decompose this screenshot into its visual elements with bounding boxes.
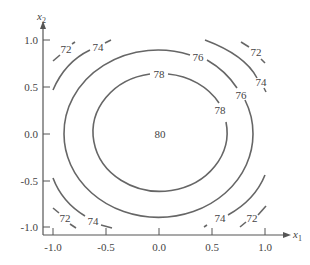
x-axis-arrow-icon	[283, 232, 291, 238]
contour-label-72: 72	[251, 46, 262, 58]
contour-label-74: 74	[256, 76, 268, 88]
contour-label-72: 72	[247, 212, 258, 224]
contour-label-76: 76	[236, 89, 248, 101]
y-tick-label: 1.0	[24, 34, 38, 46]
y-tick-label: 0.5	[24, 81, 38, 93]
x-axis-label: x1	[292, 228, 302, 243]
y-tick-label: -0.5	[21, 175, 39, 187]
y-axis-label: x2	[36, 10, 46, 25]
contour-label-78: 78	[215, 104, 227, 116]
x-tick-label: 0.0	[152, 241, 166, 253]
x-tick-label: -1.0	[44, 241, 62, 253]
center-value-label: 80	[155, 128, 167, 140]
x-tick-label: 1.0	[258, 241, 272, 253]
contour-label-72: 72	[60, 212, 71, 224]
contour-label-74: 74	[93, 41, 105, 53]
contour-label-74: 74	[88, 215, 100, 227]
y-tick-label: 0.0	[24, 128, 38, 140]
x-tick-label: 0.5	[205, 241, 219, 253]
y-tick-label: -1.0	[21, 221, 39, 233]
contour-label-78: 78	[154, 68, 166, 80]
contour-label-76: 76	[193, 51, 205, 63]
x-tick-label: -0.5	[97, 241, 115, 253]
contour-plot: 1.0 0.5 0.0 -0.5 -1.0 -1.0 -0.5 0.0 0.5 …	[0, 0, 310, 265]
y-ticks	[43, 40, 50, 227]
x-ticks	[53, 228, 265, 235]
contour-label-72: 72	[61, 43, 72, 55]
contour-label-74: 74	[215, 212, 227, 224]
